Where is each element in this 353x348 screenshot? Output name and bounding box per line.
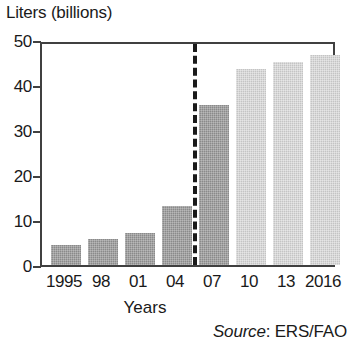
y-tick-label: 40: [2, 78, 32, 95]
x-axis-title: Years: [0, 298, 290, 318]
plot-area: [40, 42, 335, 267]
source-label: Source: [213, 322, 266, 341]
y-tick-label: 50: [2, 33, 32, 50]
bar-98: [88, 239, 118, 265]
x-axis-ticks: 19959801040710132016: [40, 272, 340, 296]
bar-chart-figure: Liters (billions) 01020304050 1995980104…: [0, 0, 353, 348]
y-tick-label: 20: [2, 168, 32, 185]
y-tick-label: 0: [2, 258, 32, 275]
bars-layer: [42, 44, 333, 265]
bar-2016: [310, 55, 340, 265]
y-axis-title: Liters (billions): [6, 3, 112, 23]
y-tick-label: 30: [2, 123, 32, 140]
source-value: ERS/FAO: [275, 322, 347, 341]
bar-10: [236, 69, 266, 265]
bar-13: [273, 62, 303, 265]
bar-1995: [51, 245, 81, 265]
bar-04: [162, 206, 192, 265]
source-note: Source: ERS/FAO: [213, 322, 347, 342]
forecast-divider-line: [193, 44, 197, 265]
bar-07: [199, 105, 229, 265]
source-separator: :: [266, 322, 275, 341]
bar-01: [125, 233, 155, 265]
x-tick-label: 2016: [298, 272, 348, 292]
y-tick-label: 10: [2, 213, 32, 230]
